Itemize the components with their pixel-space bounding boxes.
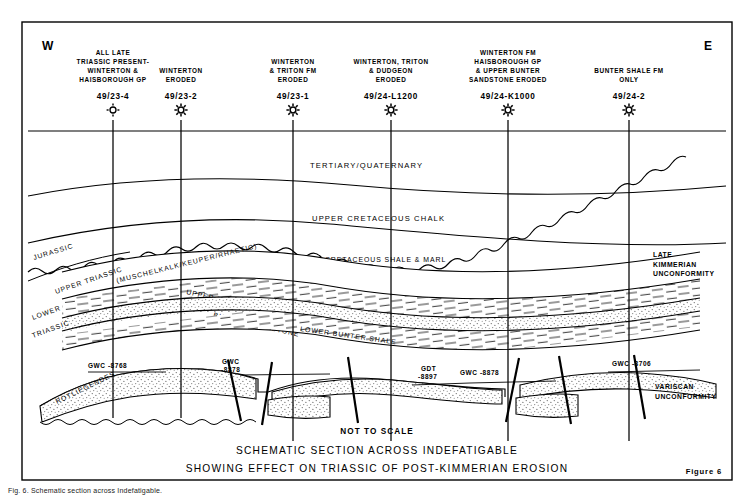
well-header-line: WINTERTON bbox=[159, 67, 203, 74]
not-to-scale-label: NOT TO SCALE bbox=[340, 427, 413, 436]
well-header-line: BUNTER SHALE FM bbox=[594, 67, 663, 74]
well-symbol-star[interactable] bbox=[384, 103, 397, 116]
well-header-line: WINTERTON FM bbox=[480, 49, 536, 56]
well-name-49-24-2[interactable]: 49/24-2 bbox=[613, 92, 646, 101]
unconformity-label-line: KIMMERIAN bbox=[653, 261, 697, 268]
contact-label: -8897 bbox=[418, 373, 437, 380]
well-symbol-star[interactable] bbox=[622, 103, 635, 116]
well-symbol-star[interactable] bbox=[501, 103, 514, 116]
contact-label: GWC bbox=[222, 358, 240, 365]
unconformity-label-line: VARISCAN bbox=[655, 383, 694, 390]
cross-section-svg: W E ALL LATETRIASSIC PRESENT-WINTERTON &… bbox=[0, 0, 754, 504]
well-header-line: ALL LATE bbox=[96, 49, 131, 56]
compass-east: E bbox=[704, 39, 712, 53]
figure-caption: Fig. 6. Schematic section across Indefat… bbox=[8, 487, 162, 494]
well-name-49-23-2[interactable]: 49/23-2 bbox=[165, 92, 198, 101]
label-tertiary-quaternary: TERTIARY/QUATERNARY bbox=[310, 161, 423, 170]
contact-label: GWC -8768 bbox=[88, 362, 127, 369]
figure-title-line-1: SCHEMATIC SECTION ACROSS INDEFATIGABLE bbox=[236, 445, 518, 456]
well-header-line: HAISBOROUGH GP bbox=[474, 58, 542, 65]
contact-label: GWC -8706 bbox=[612, 360, 651, 367]
label-upper-cretaceous-chalk: UPPER CRETACEOUS CHALK bbox=[312, 214, 445, 223]
contact-label: -8878 bbox=[221, 366, 240, 373]
well-header-line: HAISBOROUGH GP bbox=[79, 76, 147, 83]
well-name-49-24-L1200[interactable]: 49/24-L1200 bbox=[364, 92, 418, 101]
well-header-line: ERODED bbox=[278, 76, 309, 83]
contact-label: GWC -8878 bbox=[460, 369, 499, 376]
unconformity-label-line: LATE bbox=[653, 251, 672, 258]
well-header-line: ERODED bbox=[376, 76, 407, 83]
well-header-line: WINTERTON & bbox=[87, 67, 138, 74]
figure-border bbox=[22, 22, 732, 480]
figure-number: Figure 6 bbox=[686, 467, 722, 476]
unconformity-label-line: UNCONFORMITY bbox=[653, 270, 715, 277]
unconformity-label-line: UNCONFORMITY bbox=[655, 393, 717, 400]
well-name-49-23-1[interactable]: 49/23-1 bbox=[277, 92, 310, 101]
well-header-line: WINTERTON bbox=[271, 58, 315, 65]
well-header-line: & TRITON FM bbox=[269, 67, 316, 74]
well-header-line: WINTERTON, TRITON bbox=[353, 58, 428, 66]
well-symbol-star[interactable] bbox=[286, 103, 299, 116]
well-name-49-24-K1000[interactable]: 49/24-K1000 bbox=[480, 92, 535, 101]
compass-west: W bbox=[42, 39, 54, 53]
well-header-line: ONLY bbox=[619, 76, 639, 83]
well-symbol-star[interactable] bbox=[174, 103, 187, 116]
well-name-49-23-4[interactable]: 49/23-4 bbox=[97, 92, 130, 101]
figure-container: W E ALL LATETRIASSIC PRESENT-WINTERTON &… bbox=[0, 0, 754, 504]
well-header-line: SANDSTONE ERODED bbox=[469, 76, 547, 83]
well-header-line: ERODED bbox=[166, 76, 197, 83]
contact-label: GDT bbox=[421, 365, 436, 372]
figure-title-line-2: SHOWING EFFECT ON TRIASSIC OF POST-KIMME… bbox=[186, 463, 569, 474]
well-header-line: TRIASSIC PRESENT- bbox=[77, 58, 150, 65]
well-header-line: & UPPER BUNTER bbox=[476, 67, 541, 74]
well-header-line: & DUDGEON bbox=[369, 67, 413, 74]
